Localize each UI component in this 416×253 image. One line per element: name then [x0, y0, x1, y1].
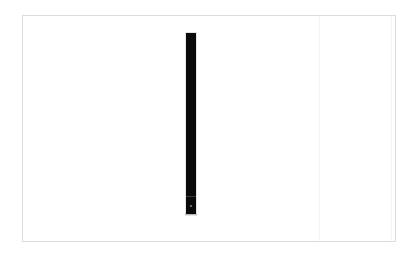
divider-line: [391, 16, 392, 241]
vertical-slider-bar[interactable]: [186, 33, 196, 215]
bar-separator: [186, 196, 196, 197]
content-panel: [22, 15, 396, 242]
screen: [0, 0, 416, 253]
divider-line: [319, 16, 320, 241]
bar-base: [185, 214, 197, 215]
grip-dot-icon[interactable]: [190, 205, 192, 207]
